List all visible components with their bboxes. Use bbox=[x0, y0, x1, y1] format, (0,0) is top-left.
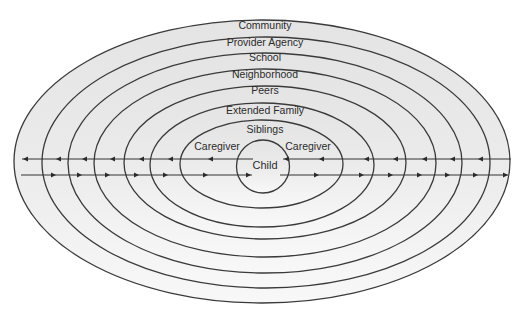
ring-label-extended-family: Extended Family bbox=[226, 104, 305, 116]
ring-label-peers: Peers bbox=[251, 84, 278, 96]
caregiver-label-right: Caregiver bbox=[285, 140, 331, 152]
caregiver-label-left: Caregiver bbox=[194, 140, 240, 152]
ecological-diagram: CommunityProvider AgencySchoolNeighborho… bbox=[0, 0, 532, 313]
ring-label-school: School bbox=[249, 51, 281, 63]
child-label: Child bbox=[252, 159, 277, 171]
ring-label-provider-agency: Provider Agency bbox=[227, 36, 304, 48]
ring-label-community: Community bbox=[238, 19, 292, 31]
ring-label-siblings: Siblings bbox=[247, 123, 284, 135]
ring-label-neighborhood: Neighborhood bbox=[232, 68, 298, 80]
